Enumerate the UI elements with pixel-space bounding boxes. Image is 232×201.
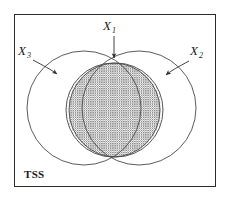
x3-label-subscript: 3	[26, 51, 31, 60]
x1-label-subscript: 1	[112, 26, 116, 35]
figure-container: X 1 X 3 X 2 TSS	[0, 0, 232, 201]
x3-label: X	[17, 43, 27, 58]
tss-label: TSS	[24, 168, 44, 180]
venn-diagram-svg: X 1 X 3 X 2 TSS	[0, 0, 232, 201]
x2-label: X	[189, 43, 199, 58]
x2-label-subscript: 2	[199, 51, 203, 60]
x1-label: X	[102, 18, 112, 33]
